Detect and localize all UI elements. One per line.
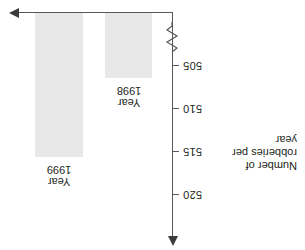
tick-label-505: 505 <box>183 60 209 72</box>
zigzag-break-icon <box>165 22 179 52</box>
axis-title-line-2: robberies per <box>219 146 297 159</box>
bar-label-line-2: 1998 <box>94 85 164 97</box>
tick-label-510: 510 <box>183 103 209 115</box>
bar-label-year-1999: Year 1999 <box>24 164 94 188</box>
bar-year-1998 <box>105 13 152 78</box>
value-axis-title: Number of robberies per year <box>219 133 297 172</box>
tick-mark <box>172 194 179 195</box>
bar-label-line-1: Year <box>24 176 94 188</box>
arrow-up-icon <box>168 236 178 246</box>
tick-label-515: 515 <box>183 146 209 158</box>
arrow-right-icon <box>9 8 19 18</box>
bar-year-1999 <box>35 13 83 157</box>
tick-mark <box>172 65 179 66</box>
bar-label-year-1998: Year 1998 <box>94 85 164 109</box>
axis-title-line-1: Number of <box>219 159 297 172</box>
bar-label-line-2: 1999 <box>24 164 94 176</box>
tick-mark <box>172 151 179 152</box>
axis-title-line-3: year <box>219 133 297 146</box>
tick-label-520: 520 <box>183 189 209 201</box>
tick-mark <box>172 108 179 109</box>
bar-chart-figure: 505 510 515 520 Number of robberies per … <box>0 0 305 250</box>
bar-label-line-1: Year <box>94 97 164 109</box>
